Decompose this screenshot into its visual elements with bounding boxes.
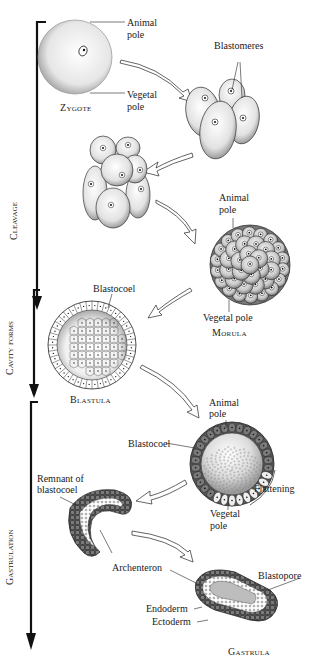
- arrow-head-icon: [29, 384, 39, 398]
- flattening-label: Flattening: [254, 484, 295, 494]
- arrow-morula-to-blastula: [148, 288, 192, 318]
- morula-stage-name: Morula: [212, 328, 247, 338]
- zygote-illustration: [38, 20, 125, 94]
- arrow-4cell-to-8cell: [143, 153, 193, 176]
- arrow-head-icon: [26, 633, 36, 650]
- endoderm-label: Endoderm: [146, 604, 188, 614]
- eight-cell-illustration: [83, 136, 150, 228]
- ectoderm-label: Ectoderm: [152, 617, 191, 627]
- remnant-blastocoel-label: Remnant of blastocoel: [37, 473, 84, 495]
- morula-vegetal-pole-label: Vegetal pole: [203, 313, 253, 323]
- zygote-animal-pole-label: Animal pole: [127, 17, 157, 41]
- blastula-stage-name: Blastula: [70, 395, 111, 405]
- arrow-early-to-mid-gastrula: [136, 480, 187, 504]
- archenteron-label: Archenteron: [112, 563, 162, 573]
- morula-animal-pole-label: Animal pole: [219, 192, 249, 216]
- gastrula-stage-name: Gastrula: [228, 647, 270, 657]
- zygote-vegetal-pole-label: Vegetal pole: [127, 89, 157, 113]
- early-gastrula-vegetal-pole-label: Vegetal pole: [210, 508, 240, 532]
- morula-illustration: [210, 218, 290, 312]
- zygote-stage-name: Zygote: [60, 103, 92, 113]
- arrow-8cell-to-morula: [156, 200, 196, 244]
- phase-label-gastrulation: Gastrulation: [4, 530, 15, 585]
- timeline-gastrulation: [26, 402, 38, 650]
- mid-gastrula-illustration: [60, 490, 132, 557]
- blastomeres-label: Blastomeres: [214, 41, 263, 51]
- blastocoel-cavity: [57, 310, 127, 380]
- arrow-blastula-to-early-gastrula: [140, 365, 199, 418]
- phase-label-cleavage: Cleavage: [8, 202, 19, 240]
- blastula-illustration: [48, 294, 136, 389]
- blastula-blastocoel-label: Blastocoel: [93, 284, 135, 294]
- blastopore-label: Blastopore: [258, 571, 301, 581]
- early-gastrula-animal-pole-label: Animal pole: [209, 397, 239, 419]
- early-gastrula-illustration: [166, 420, 275, 510]
- phase-label-cavity: Cavity forms: [4, 321, 15, 375]
- early-gastrula-blastocoel-label: Blastocoel: [128, 439, 170, 449]
- arrow-mid-to-gastrula: [132, 531, 193, 562]
- four-cell-illustration: [182, 62, 263, 161]
